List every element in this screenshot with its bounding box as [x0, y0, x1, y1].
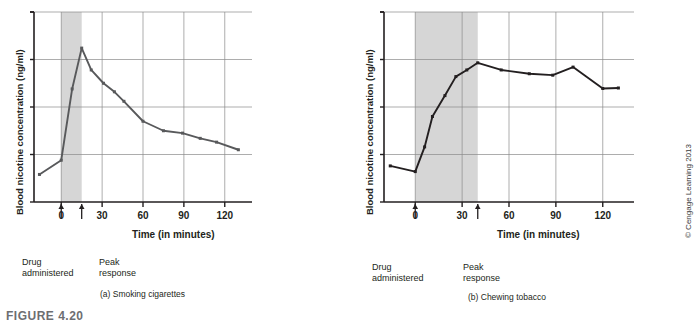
annotation-drug-administered-b: Drug administered — [372, 262, 424, 284]
annotation-drug-administered-a: Drug administered — [22, 257, 74, 279]
plot-area-b: 051015200306090120 — [380, 4, 637, 219]
data-point — [431, 115, 434, 118]
figure-label: FIGURE 4.20 — [6, 309, 84, 322]
annotation-arrow-head — [79, 204, 85, 209]
x-tick-label: 30 — [97, 210, 109, 219]
data-point — [572, 66, 575, 69]
annotation-line1: Drug — [22, 257, 42, 267]
data-point — [617, 87, 620, 90]
data-point — [237, 148, 240, 151]
x-tick-label: 90 — [550, 210, 562, 219]
data-point — [443, 94, 446, 97]
x-axis-title-b: Time (in minutes) — [497, 229, 580, 240]
panel-caption-a: (a) Smoking cigarettes — [100, 289, 185, 299]
annotation-peak-response-b: Peak response — [463, 262, 500, 284]
annotation-line1: Drug — [372, 262, 392, 272]
data-point — [215, 141, 218, 144]
x-tick-label: 120 — [594, 210, 611, 219]
x-tick-label: 60 — [503, 210, 515, 219]
data-point — [465, 68, 468, 71]
y-axis-label-b: Blood nicotine concentration (ng/ml) — [364, 49, 375, 215]
line-chart-b: 051015200306090120 — [380, 4, 637, 219]
x-axis-title-a: Time (in minutes) — [132, 229, 215, 240]
data-point — [389, 164, 392, 167]
data-point — [454, 75, 457, 78]
data-point — [102, 82, 105, 85]
data-point — [71, 87, 74, 90]
annotation-arrow-head — [58, 204, 64, 209]
data-point — [476, 61, 479, 64]
annotation-arrow-head — [412, 204, 418, 209]
data-point — [528, 72, 531, 75]
data-point — [122, 100, 125, 103]
plot-area-a: 051015200306090120 — [30, 4, 255, 219]
data-point — [142, 120, 145, 123]
data-point — [414, 170, 417, 173]
annotation-peak-response-a: Peak response — [99, 257, 136, 279]
x-tick-label: 60 — [137, 210, 149, 219]
data-point — [60, 159, 63, 162]
figure-root: Blood nicotine concentration (ng/ml) 051… — [0, 0, 697, 322]
panel-caption-b: (b) Chewing tobacco — [468, 292, 546, 302]
x-tick-label: 90 — [178, 210, 190, 219]
annotation-line2: administered — [372, 273, 424, 283]
data-point — [90, 68, 93, 71]
x-tick-label: 120 — [216, 210, 233, 219]
chart-panel-b: Blood nicotine concentration (ng/ml) 051… — [350, 0, 660, 322]
data-point — [601, 87, 604, 90]
data-point — [38, 173, 41, 176]
data-point — [551, 74, 554, 77]
annotation-line2: response — [99, 268, 136, 278]
annotation-line1: Peak — [463, 262, 484, 272]
data-point — [423, 145, 426, 148]
annotation-arrow-head — [475, 204, 481, 209]
data-point — [162, 129, 165, 132]
y-axis-label-a: Blood nicotine concentration (ng/ml) — [14, 49, 25, 215]
copyright-notice: © Cengage Learning 2013 — [684, 144, 693, 238]
data-point — [500, 68, 503, 71]
data-point — [113, 90, 116, 93]
annotation-line1: Peak — [99, 257, 120, 267]
annotation-line2: administered — [22, 268, 74, 278]
data-point — [199, 137, 202, 140]
data-point — [181, 132, 184, 135]
chart-panel-a: Blood nicotine concentration (ng/ml) 051… — [0, 0, 350, 322]
x-tick-label: 30 — [457, 210, 469, 219]
data-point — [80, 47, 83, 50]
annotation-line2: response — [463, 273, 500, 283]
line-chart-a: 051015200306090120 — [30, 4, 255, 219]
